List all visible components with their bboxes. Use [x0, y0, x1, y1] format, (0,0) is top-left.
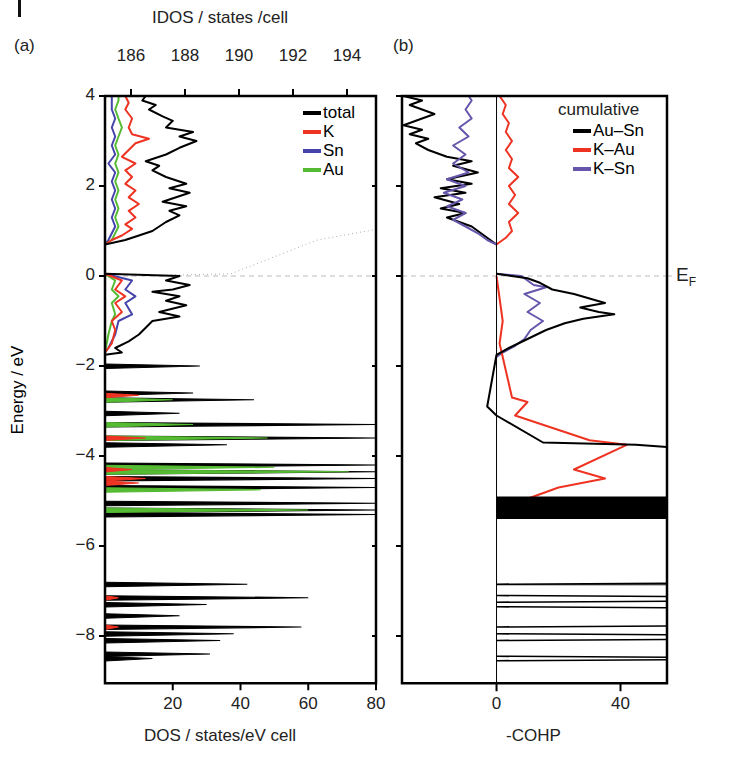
cohp-band-line [497, 583, 667, 584]
cohp-curve-upper [404, 96, 497, 245]
energy-tick-label: 2 [86, 175, 95, 195]
dos-tick-label: 60 [299, 694, 318, 714]
fermi-label-subscript: F [689, 275, 696, 289]
dos-peak-total [105, 632, 234, 637]
energy-tick-label: −2 [76, 355, 95, 375]
legend-label: Sn [323, 141, 344, 161]
dos-peak-au [105, 470, 349, 475]
idos-tick-label: 188 [171, 46, 199, 66]
legend-item: Sn [303, 141, 344, 161]
cohp-band-line [497, 596, 667, 597]
cohp-band-line [497, 656, 667, 657]
dos-peak-total [105, 501, 376, 506]
cohp-band-line [497, 660, 667, 661]
cohp-band-line [497, 634, 667, 635]
legend-swatch-icon [303, 111, 321, 115]
legend-label: Au–Sn [593, 121, 644, 141]
dos-curve-k [105, 96, 149, 245]
cohp-curve-lower [497, 276, 627, 506]
dos-peak-total [105, 652, 210, 657]
energy-tick-label: 4 [86, 85, 95, 105]
legend-label: total [323, 103, 355, 123]
dos-peak-total [105, 596, 308, 601]
idos-tick-label: 190 [225, 46, 253, 66]
dos-peak-total [105, 513, 376, 518]
dos-peak-total [105, 443, 227, 448]
legend-item: Au–Sn [573, 121, 644, 141]
dos-peak-total [105, 364, 200, 369]
dos-peak-total [105, 657, 152, 662]
panel-a-label: (a) [14, 36, 35, 56]
legend-label: K–Sn [593, 159, 635, 179]
cohp-band-line [497, 601, 667, 602]
idos-tick-label: 186 [117, 46, 145, 66]
legend-item: K [303, 122, 334, 142]
legend-label: K–Au [593, 140, 635, 160]
legend-label: Au [323, 160, 344, 180]
legend-item: total [303, 103, 355, 123]
cohp-curve-upper [497, 96, 519, 245]
cohp-band-line [497, 607, 667, 608]
dos-peak-total [105, 582, 247, 587]
fermi-level-label: EF [676, 264, 696, 289]
cohp-band-line [497, 640, 667, 641]
idos-tick-label: 194 [333, 46, 361, 66]
legend-swatch-icon [303, 130, 321, 134]
energy-tick-label: −4 [76, 445, 95, 465]
dos-peak-total [105, 625, 301, 630]
legend-swatch-icon [573, 148, 591, 152]
legend-swatch-icon [303, 149, 321, 153]
energy-tick-label: −8 [76, 625, 95, 645]
cohp-curve-lower [497, 274, 547, 357]
energy-tick-label: −6 [76, 535, 95, 555]
dos-peak-total [105, 639, 220, 644]
cohp-axis-title: -COHP [506, 726, 561, 746]
dos-peak-au [105, 508, 308, 513]
panel-b-label: (b) [393, 36, 414, 56]
dos-tick-label: 80 [367, 694, 386, 714]
axis-frames [99, 89, 667, 691]
dos-axis-title: DOS / states/eV cell [144, 726, 296, 746]
cohp-tick-label: 40 [611, 694, 630, 714]
dos-tick-label: 40 [231, 694, 250, 714]
dos-peak-total [105, 411, 180, 416]
legend-swatch-icon [303, 168, 321, 172]
cohp-plot-area [402, 96, 672, 683]
cohp-legend-title: cumulative [558, 100, 639, 120]
dos-curve-sn [105, 96, 115, 245]
dos-peak-total [105, 603, 207, 608]
legend-swatch-icon [573, 167, 591, 171]
fermi-label-e: E [676, 264, 689, 285]
energy-axis-title: Energy / eV [8, 346, 28, 435]
energy-tick-label: 0 [86, 265, 95, 285]
idos-tick-label: 192 [279, 46, 307, 66]
dos-plot-area [105, 96, 379, 661]
legend-label: K [323, 122, 334, 142]
dos-peak-k [105, 481, 139, 486]
idos-trace [131, 229, 379, 276]
legend-item: K–Sn [573, 159, 635, 179]
legend-item: K–Au [573, 140, 635, 160]
cohp-tick-label: 0 [492, 694, 501, 714]
legend-item: Au [303, 160, 344, 180]
cohp-dense-band [497, 497, 667, 520]
cohp-band-line [497, 626, 667, 627]
dos-frame [105, 96, 376, 683]
dos-peak-total [105, 614, 180, 619]
dos-tick-label: 20 [163, 694, 182, 714]
legend-swatch-icon [573, 129, 591, 133]
idos-axis-title: IDOS / states /cell [152, 8, 288, 28]
